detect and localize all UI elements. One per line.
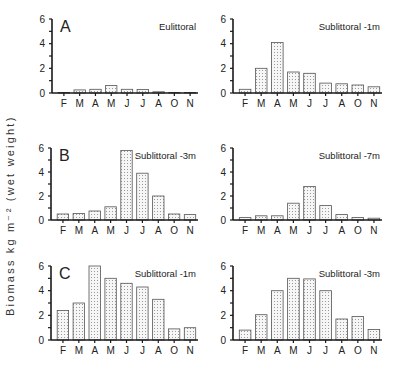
panel-letter: B: [59, 147, 70, 164]
y-tick-label: 0: [220, 215, 226, 226]
y-tick-label: 2: [220, 63, 226, 74]
y-tick-label: 6: [220, 143, 226, 154]
x-tick-label: F: [242, 225, 248, 236]
x-tick-label: M: [107, 98, 115, 109]
x-tick-label: M: [289, 225, 297, 236]
panel-title: Sublittoral -1m: [319, 21, 380, 32]
x-tick-label: M: [75, 225, 83, 236]
x-tick-label: F: [242, 98, 248, 109]
y-tick-label: 0: [39, 88, 45, 99]
bar: [184, 215, 195, 220]
bar: [352, 85, 364, 93]
x-tick-label: J: [323, 345, 328, 356]
bar: [57, 214, 68, 220]
panel-letter: C: [59, 265, 71, 282]
bar: [320, 206, 332, 220]
bar: [368, 87, 380, 93]
y-tick-label: 4: [220, 38, 226, 49]
x-tick-label: F: [60, 225, 66, 236]
y-tick-label: 6: [38, 261, 44, 272]
x-tick-label: A: [338, 225, 345, 236]
bar: [105, 278, 116, 340]
x-tick-label: J: [140, 98, 145, 109]
y-tick-label: 2: [220, 310, 226, 321]
x-tick-label: N: [186, 345, 193, 356]
x-tick-label: M: [257, 98, 265, 109]
x-tick-label: F: [61, 98, 67, 109]
panel-title: Sublittoral -1m: [135, 268, 196, 279]
bar: [137, 173, 148, 220]
x-tick-label: N: [370, 98, 377, 109]
chart-panel: FMAMJJAON0246AEulittoral: [39, 14, 198, 110]
bar: [288, 72, 300, 93]
bar: [153, 196, 164, 220]
panel-title: Eulittoral: [159, 21, 196, 32]
bar: [320, 291, 332, 340]
bar: [168, 329, 179, 340]
chart-panel: FMAMJJAON0246BSublittoral -3m: [38, 143, 198, 237]
bar: [57, 310, 68, 340]
x-tick-label: A: [92, 98, 99, 109]
x-tick-label: O: [354, 225, 362, 236]
bar: [304, 186, 316, 220]
bar: [272, 291, 284, 340]
x-tick-label: A: [155, 98, 162, 109]
chart-panel: FMAMJJAON0246Sublittoral -7m: [220, 143, 382, 237]
x-tick-label: J: [124, 345, 129, 356]
x-tick-label: M: [106, 225, 114, 236]
panel-title: Sublittoral -7m: [319, 150, 380, 161]
bar: [137, 287, 148, 340]
bar: [336, 84, 348, 93]
bar: [336, 215, 348, 220]
x-tick-label: A: [155, 225, 162, 236]
bar: [239, 330, 251, 340]
y-tick-label: 6: [220, 14, 226, 25]
bar: [73, 213, 84, 220]
panel-title: Sublittoral -3m: [135, 150, 196, 161]
x-tick-label: O: [170, 225, 178, 236]
x-tick-label: O: [354, 98, 362, 109]
panels: FMAMJJAON0246AEulittoralFMAMJJAON0246Sub…: [38, 14, 382, 357]
x-tick-label: A: [155, 345, 162, 356]
bar: [89, 266, 100, 340]
y-tick-label: 0: [38, 335, 44, 346]
chart-panel: FMAMJJAON0246Sublittoral -3m: [220, 261, 382, 357]
bar: [168, 214, 179, 220]
bar: [288, 278, 300, 340]
y-tick-label: 4: [38, 285, 44, 296]
x-tick-label: F: [242, 345, 248, 356]
x-tick-label: J: [124, 225, 129, 236]
chart-canvas: FMAMJJAON0246AEulittoralFMAMJJAON0246Sub…: [0, 0, 396, 370]
y-tick-label: 4: [39, 38, 45, 49]
x-tick-label: J: [140, 225, 145, 236]
bar: [368, 330, 380, 341]
bar: [73, 303, 84, 340]
x-tick-label: M: [289, 98, 297, 109]
x-tick-label: A: [91, 225, 98, 236]
x-tick-label: N: [186, 98, 193, 109]
bar: [153, 299, 164, 340]
x-tick-label: M: [75, 98, 83, 109]
bar: [272, 42, 284, 93]
x-tick-label: J: [307, 98, 312, 109]
y-tick-label: 6: [220, 261, 226, 272]
y-tick-label: 4: [220, 285, 226, 296]
bar: [336, 319, 348, 340]
y-tick-label: 2: [39, 63, 45, 74]
x-tick-label: M: [257, 345, 265, 356]
y-tick-label: 6: [38, 143, 44, 154]
bar: [320, 83, 332, 93]
bar: [255, 68, 267, 93]
x-tick-label: J: [307, 345, 312, 356]
x-tick-label: A: [338, 345, 345, 356]
bar: [89, 211, 100, 220]
x-tick-label: A: [274, 345, 281, 356]
panel-letter: A: [60, 18, 71, 35]
x-tick-label: M: [106, 345, 114, 356]
x-tick-label: N: [370, 345, 377, 356]
bar: [184, 328, 195, 340]
y-tick-label: 2: [38, 191, 44, 202]
x-tick-label: J: [323, 225, 328, 236]
x-tick-label: M: [289, 345, 297, 356]
x-tick-label: J: [140, 345, 145, 356]
